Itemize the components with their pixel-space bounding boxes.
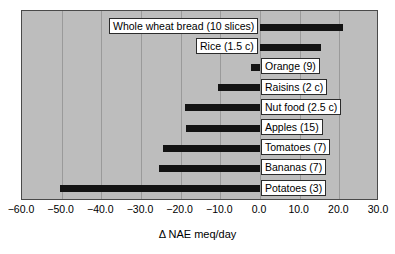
bar-label: Orange (9) — [261, 58, 320, 74]
x-tick-label: 20.0 — [328, 203, 348, 215]
bar-label: Raisins (2 c) — [261, 79, 327, 95]
x-axis-title: Δ NAE meq/day — [0, 228, 395, 240]
x-tick-label: 0.0 — [252, 203, 267, 215]
bar-label: Bananas (7) — [261, 159, 326, 175]
x-tick-label: −50.0 — [47, 203, 74, 215]
bar-label: Tomatoes (7) — [261, 139, 330, 155]
x-tick-label: −60.0 — [8, 203, 35, 215]
x-tick-label: −10.0 — [206, 203, 233, 215]
gridline — [141, 11, 142, 199]
x-tick-label: 10.0 — [288, 203, 308, 215]
gridline — [62, 11, 63, 199]
bar — [185, 104, 260, 111]
bar-label: Apples (15) — [261, 119, 323, 135]
bar-label: Whole wheat bread (10 slices) — [109, 18, 258, 34]
bar-label: Potatoes (3) — [261, 180, 326, 196]
bar — [260, 44, 321, 51]
x-tick-label: −40.0 — [87, 203, 114, 215]
x-tick-label: −30.0 — [127, 203, 154, 215]
bar-label: Nut food (2.5 c) — [261, 99, 341, 115]
bar — [260, 24, 343, 31]
bar — [218, 84, 260, 91]
bar — [60, 185, 260, 192]
bar — [159, 165, 260, 172]
bar — [186, 125, 260, 132]
x-tick-label: 30.0 — [368, 203, 388, 215]
bar-label: Rice (1.5 c) — [196, 38, 258, 54]
x-tick-label: −20.0 — [166, 203, 193, 215]
gridline — [101, 11, 102, 199]
bar — [163, 145, 260, 152]
bar — [251, 64, 260, 71]
chart-figure: Δ NAE meq/day Whole wheat bread (10 slic… — [0, 0, 395, 254]
